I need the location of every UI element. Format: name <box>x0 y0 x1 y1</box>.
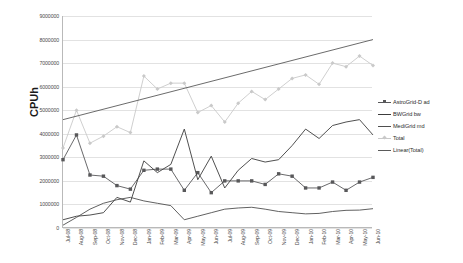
x-axis-tick-label: Sep-08 <box>92 229 98 263</box>
x-axis-tick-label: Mar-09 <box>173 229 179 263</box>
x-axis-tick-label: Jun-09 <box>213 229 219 263</box>
x-axis-tick-label: Jul-09 <box>227 229 233 263</box>
series-marker <box>223 179 226 182</box>
y-axis-tick-label: 5000000 <box>40 107 64 113</box>
legend-item[interactable]: Linear(Total) <box>378 144 463 156</box>
y-axis-tick-label: 8000000 <box>40 37 64 43</box>
series-line <box>63 135 373 193</box>
series-marker <box>74 108 78 112</box>
x-axis-tick-label: Aug-09 <box>240 229 246 263</box>
x-axis-tick-label: May-09 <box>200 229 206 263</box>
y-axis-tick-label: 9000000 <box>40 13 64 19</box>
series-marker <box>115 184 118 187</box>
legend-swatch-icon <box>378 98 391 107</box>
series-marker <box>183 189 186 192</box>
series-marker <box>196 111 200 115</box>
legend-item[interactable]: MediGrid md <box>378 120 463 132</box>
x-axis-tick-label: Apr-09 <box>186 229 192 263</box>
series-marker <box>331 180 334 183</box>
series-marker <box>129 187 132 190</box>
x-axis-tick-label: May-10 <box>362 229 368 263</box>
series-marker <box>182 81 186 85</box>
series-line <box>63 56 373 148</box>
series-layer <box>63 16 373 228</box>
y-axis-tick-label: 7000000 <box>40 60 64 66</box>
series-marker <box>250 179 253 182</box>
series-marker <box>344 189 347 192</box>
chart-container: CPUh 90000008000000700000060000005000000… <box>0 0 463 263</box>
series-marker <box>142 169 145 172</box>
x-axis-tick-label: Dec-09 <box>294 229 300 263</box>
series-marker <box>169 167 172 170</box>
series-marker <box>263 183 266 186</box>
x-axis-tick-label: Jul-08 <box>65 229 71 263</box>
series-line <box>63 120 373 220</box>
series-marker <box>102 174 105 177</box>
legend-swatch-icon <box>378 122 391 131</box>
x-axis-tick-label: Jun-10 <box>375 229 381 263</box>
series-marker <box>169 81 173 85</box>
y-axis-tick-label: 2000000 <box>40 178 64 184</box>
legend-item[interactable]: AstroGrid-D ad <box>378 96 463 108</box>
legend-item-label: MediGrid md <box>393 123 424 129</box>
x-axis-tick-label: Nov-08 <box>119 229 125 263</box>
series-line <box>63 197 373 225</box>
y-axis-tick-label: 1000000 <box>40 201 64 207</box>
legend-swatch-icon <box>378 134 391 143</box>
legend-item[interactable]: Total <box>378 132 463 144</box>
x-axis-tick-label: Oct-09 <box>267 229 273 263</box>
series-marker <box>88 173 91 176</box>
legend-item-label: Total <box>393 135 405 141</box>
series-marker <box>156 167 159 170</box>
x-axis-tick-label: Nov-09 <box>281 229 287 263</box>
legend-item[interactable]: BWGrid bw <box>378 108 463 120</box>
series-marker <box>358 180 361 183</box>
legend-item-label: Linear(Total) <box>393 147 423 153</box>
series-marker <box>210 191 213 194</box>
y-axis-title: CPUh <box>28 72 40 132</box>
chart-legend: AstroGrid-D adBWGrid bwMediGrid mdTotalL… <box>378 96 463 156</box>
x-axis-tick-label: Jan-09 <box>146 229 152 263</box>
series-marker <box>128 131 132 135</box>
plot-area: 9000000800000070000006000000500000040000… <box>62 16 372 228</box>
legend-swatch-icon <box>378 146 391 155</box>
legend-item-label: BWGrid bw <box>393 111 421 117</box>
series-marker <box>371 176 374 179</box>
series-marker <box>61 158 64 161</box>
x-axis-labels: Jul-08Aug-08Sep-08Oct-08Nov-08Dec-08Jan-… <box>62 229 372 263</box>
series-marker <box>290 174 293 177</box>
x-axis-tick-label: Oct-08 <box>105 229 111 263</box>
x-axis-tick-label: Jan-10 <box>308 229 314 263</box>
series-marker <box>75 133 78 136</box>
series-marker <box>61 146 65 150</box>
x-axis-tick-label: Feb-10 <box>321 229 327 263</box>
trendline-total <box>63 40 373 120</box>
series-marker <box>237 179 240 182</box>
x-axis-tick-label: Sep-09 <box>254 229 260 263</box>
x-axis-tick-label: Mar-10 <box>335 229 341 263</box>
y-axis-tick-label: 3000000 <box>40 154 64 160</box>
series-marker <box>277 172 280 175</box>
series-marker <box>88 141 92 145</box>
x-axis-tick-label: Feb-09 <box>159 229 165 263</box>
series-marker <box>317 186 320 189</box>
x-axis-tick-label: Dec-08 <box>132 229 138 263</box>
x-axis-tick-label: Aug-08 <box>78 229 84 263</box>
legend-swatch-icon <box>378 110 391 119</box>
series-marker <box>304 186 307 189</box>
legend-item-label: AstroGrid-D ad <box>393 99 430 105</box>
x-axis-tick-label: Apr-10 <box>348 229 354 263</box>
y-axis-tick-label: 6000000 <box>40 84 64 90</box>
y-axis-tick-label: 4000000 <box>40 131 64 137</box>
